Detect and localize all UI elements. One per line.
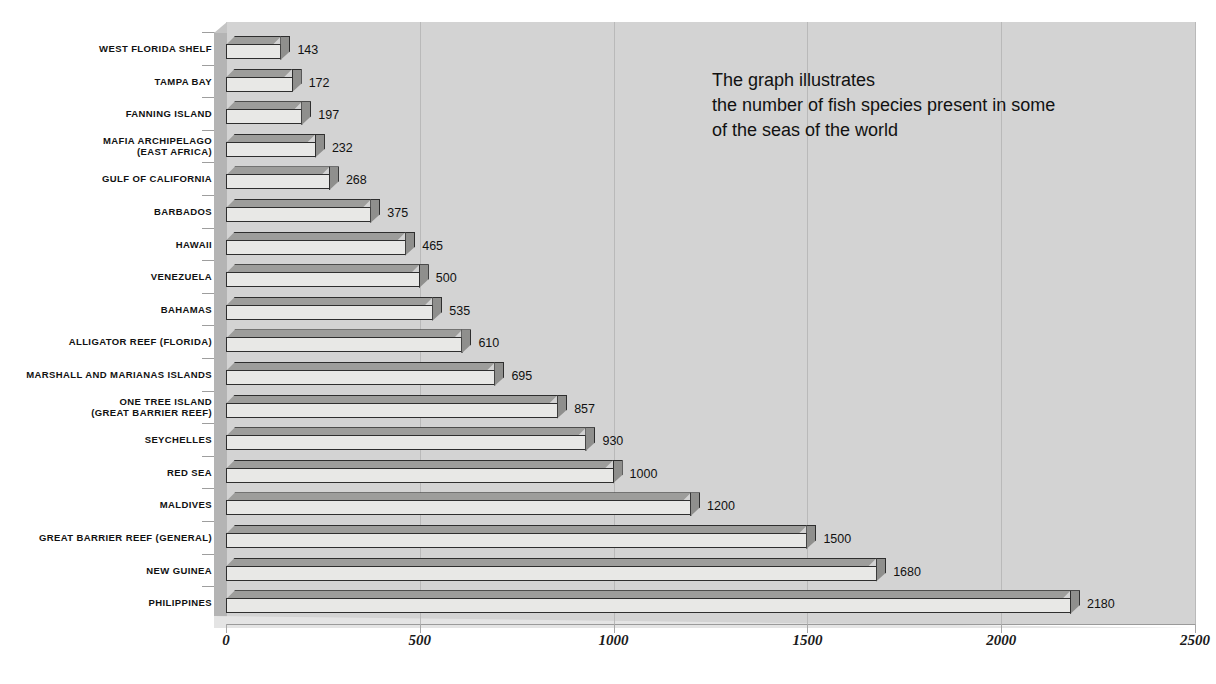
- x-tick-label-2000: 2000: [986, 632, 1016, 649]
- bar-value-label: 465: [422, 239, 443, 253]
- bar: [226, 362, 495, 377]
- category-label: ONE TREE ISLAND (GREAT BARRIER REEF): [91, 396, 212, 418]
- bar-value-label: 500: [436, 271, 457, 285]
- bar: [226, 427, 586, 442]
- category-tick: [202, 32, 214, 33]
- bar: [226, 264, 420, 279]
- bar-value-label: 232: [332, 141, 353, 155]
- x-tick-label-1500: 1500: [792, 632, 822, 649]
- bar-front-face: [226, 207, 371, 222]
- bar-value-label: 197: [318, 108, 339, 122]
- bar-value-label: 695: [511, 369, 532, 383]
- bar-value-label: 375: [387, 206, 408, 220]
- category-tick: [202, 260, 214, 261]
- category-tick: [202, 325, 214, 326]
- bar-front-face: [226, 533, 807, 548]
- bar-front-face: [226, 435, 586, 450]
- bar-front-face: [226, 174, 330, 189]
- category-tick: [202, 391, 214, 392]
- bar-front-face: [226, 240, 406, 255]
- category-tick: [202, 65, 214, 66]
- bar-front-face: [226, 305, 433, 320]
- bar-front-face: [226, 142, 316, 157]
- category-label: NEW GUINEA: [146, 564, 212, 575]
- category-label: BAHAMAS: [161, 303, 212, 314]
- bar-value-label: 2180: [1087, 597, 1115, 611]
- x-tick-label-2500: 2500: [1180, 632, 1210, 649]
- category-label: GULF OF CALIFORNIA: [102, 173, 212, 184]
- bar: [226, 134, 316, 149]
- bar-value-label: 535: [449, 304, 470, 318]
- bar-value-label: 1680: [893, 565, 921, 579]
- x-axis-line: [226, 624, 1195, 625]
- category-tick: [202, 554, 214, 555]
- category-tick: [202, 97, 214, 98]
- bar: [226, 590, 1071, 605]
- category-label: GREAT BARRIER REEF (GENERAL): [39, 532, 212, 543]
- category-label: WEST FLORIDA SHELF: [99, 43, 212, 54]
- category-tick: [202, 358, 214, 359]
- category-tick: [202, 488, 214, 489]
- bar-value-label: 857: [574, 402, 595, 416]
- bar-value-label: 172: [309, 76, 330, 90]
- category-label: BARBADOS: [154, 206, 212, 217]
- category-label: MAFIA ARCHIPELAGO (EAST AFRICA): [103, 135, 212, 157]
- bar: [226, 232, 406, 247]
- category-tick: [202, 456, 214, 457]
- bar-front-face: [226, 109, 302, 124]
- bar: [226, 101, 302, 116]
- category-label: MARSHALL AND MARIANAS ISLANDS: [26, 369, 212, 380]
- bar-front-face: [226, 500, 691, 515]
- category-label: RED SEA: [167, 466, 212, 477]
- bar-front-face: [226, 403, 558, 418]
- bar: [226, 395, 558, 410]
- bar-front-face: [226, 272, 420, 287]
- x-tick-label-1000: 1000: [599, 632, 629, 649]
- bar: [226, 297, 433, 312]
- category-label: ALLIGATOR REEF (FLORIDA): [69, 336, 212, 347]
- x-tick-label-0: 0: [222, 632, 230, 649]
- fish-species-bar-chart: 05001000150020002500 WEST FLORIDA SHELFT…: [0, 0, 1216, 684]
- bar-value-label: 930: [602, 434, 623, 448]
- bar-front-face: [226, 77, 293, 92]
- bar: [226, 492, 691, 507]
- bar-value-label: 1200: [707, 499, 735, 513]
- x-tick-label-500: 500: [409, 632, 432, 649]
- bar-front-face: [226, 468, 614, 483]
- bar: [226, 329, 462, 344]
- category-label: PHILIPPINES: [148, 597, 212, 608]
- category-tick: [202, 130, 214, 131]
- category-label: SEYCHELLES: [145, 434, 212, 445]
- bar-value-label: 610: [478, 336, 499, 350]
- category-tick: [202, 586, 214, 587]
- bar: [226, 199, 371, 214]
- bar: [226, 460, 614, 475]
- bar-front-face: [226, 337, 462, 352]
- bar: [226, 36, 281, 51]
- category-label: MALDIVES: [160, 499, 212, 510]
- category-label: FANNING ISLAND: [126, 108, 212, 119]
- bar-value-label: 143: [297, 43, 318, 57]
- bar: [226, 558, 877, 573]
- bar-front-face: [226, 44, 281, 59]
- bar-front-face: [226, 370, 495, 385]
- gridline-2500: [1195, 22, 1196, 624]
- bar: [226, 525, 807, 540]
- category-tick: [202, 521, 214, 522]
- category-label: TAMPA BAY: [155, 75, 212, 86]
- category-tick: [202, 162, 214, 163]
- category-tick: [202, 293, 214, 294]
- bar-value-label: 268: [346, 173, 367, 187]
- bar: [226, 69, 293, 84]
- category-tick: [202, 195, 214, 196]
- chart-annotation: The graph illustrates the number of fish…: [712, 68, 1055, 143]
- category-tick: [202, 228, 214, 229]
- bar-front-face: [226, 566, 877, 581]
- bar-value-label: 1500: [823, 532, 851, 546]
- category-label: HAWAII: [176, 238, 212, 249]
- bar-front-face: [226, 598, 1071, 613]
- category-tick: [202, 423, 214, 424]
- category-label: VENEZUELA: [151, 271, 212, 282]
- bar: [226, 166, 330, 181]
- bar-value-label: 1000: [630, 467, 658, 481]
